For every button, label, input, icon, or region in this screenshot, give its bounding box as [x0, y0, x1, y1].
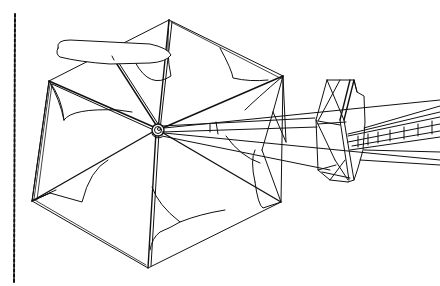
- truss-module: [316, 80, 365, 182]
- sail-structure-drawing: [0, 0, 440, 286]
- dashed-edge-line: [14, 14, 15, 283]
- paddle-blade: [57, 40, 171, 128]
- tension-lines: [162, 76, 440, 202]
